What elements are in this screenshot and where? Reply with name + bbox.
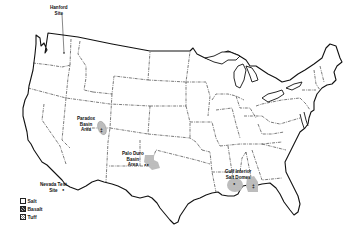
label-line: Paradox xyxy=(77,116,95,122)
svg-text:●●: ●● xyxy=(144,162,149,167)
svg-text:‡: ‡ xyxy=(100,127,103,133)
legend-label: Basalt xyxy=(28,206,43,212)
label-line: Area xyxy=(77,127,95,133)
palo-duro-basin-label: Palo Duro Basin Area xyxy=(122,151,144,168)
paradox-basin-label: Paradox Basin Area xyxy=(77,116,95,133)
label-line: Hanford xyxy=(50,5,68,11)
label-line: Site xyxy=(50,11,68,17)
tuff-swatch-icon xyxy=(20,214,26,220)
label-line: Area xyxy=(122,162,144,168)
label-line: Palo Duro xyxy=(122,151,144,157)
gulf-interior-salt-domes-label: Gulf Interior Salt Domes xyxy=(225,169,251,180)
label-line: Site xyxy=(40,188,67,194)
legend-item-tuff: Tuff xyxy=(20,213,43,221)
salt-swatch-icon xyxy=(20,198,26,204)
legend-item-basalt: Basalt xyxy=(20,205,43,213)
label-line: Salt Domes xyxy=(225,175,251,181)
us-outline xyxy=(23,33,342,224)
hanford-site-label: Hanford Site xyxy=(50,5,68,16)
label-line: Gulf Interior xyxy=(225,169,251,175)
us-map: ‡ ●● ● ‡ ● xyxy=(0,0,359,251)
legend-label: Tuff xyxy=(28,214,37,220)
legend: Salt Basalt Tuff xyxy=(20,197,43,221)
label-line: Nevada Test xyxy=(40,182,67,188)
svg-text:‡: ‡ xyxy=(252,183,255,189)
nevada-test-site-label: Nevada Test Site xyxy=(40,182,67,193)
legend-label: Salt xyxy=(28,198,37,204)
basalt-swatch-icon xyxy=(20,206,26,212)
legend-item-salt: Salt xyxy=(20,197,43,205)
